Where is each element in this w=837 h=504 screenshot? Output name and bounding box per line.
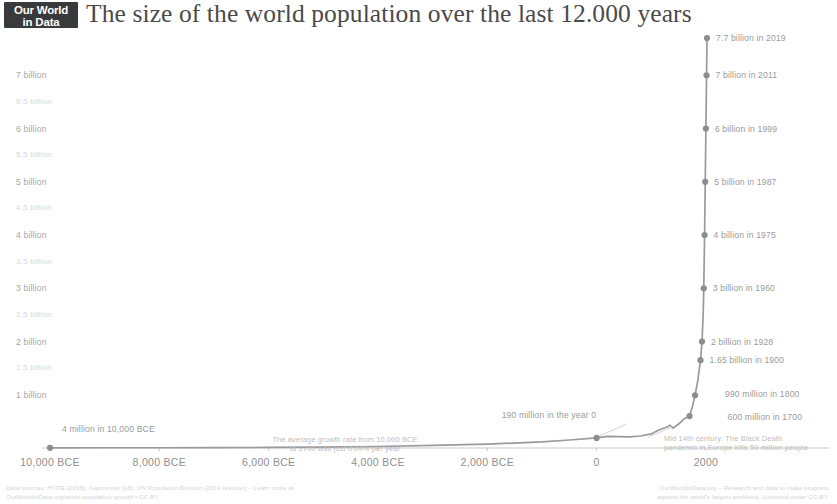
data-point-label: 990 million in 1800: [725, 389, 800, 399]
footer-sources: Data sources: HYDE (2016); Gapminder (v6…: [6, 484, 294, 491]
annotation-leader-lines: [600, 424, 672, 437]
footer-license: against the world's largest problems. Li…: [657, 493, 829, 500]
annotation-line: to 1700 was just 0.04% per year: [272, 444, 417, 453]
y-axis-tick-label: 7 billion: [16, 70, 47, 80]
data-point-marker[interactable]: [703, 72, 709, 78]
x-axis-tick-label: 6,000 BCE: [242, 456, 295, 468]
footer-site[interactable]: OurWorldInData.org – Research and data t…: [660, 484, 829, 491]
our-world-in-data-logo[interactable]: Our World in Data: [4, 2, 78, 28]
y-axis-tick-label: 5 billion: [16, 177, 47, 187]
x-axis-tick-label: 10,000 BCE: [20, 456, 80, 468]
data-point-label: 2 billion in 1928: [711, 337, 773, 347]
annotation-line: The average growth rate from 10,000 BCE: [272, 435, 417, 444]
y-axis-tick-label: 2 billion: [16, 337, 47, 347]
data-point-marker[interactable]: [701, 285, 707, 291]
data-point-label: 190 million in the year 0: [502, 410, 597, 420]
logo-line-2: in Data: [4, 16, 78, 28]
y-axis-tick-label: 4 billion: [16, 230, 47, 240]
data-point-label: 6 billion in 1999: [715, 124, 777, 134]
x-axis-tick-label: 2000: [694, 456, 719, 468]
data-point-marker[interactable]: [702, 179, 708, 185]
chart-header: Our World in Data The size of the world …: [0, 0, 837, 30]
data-point-label: 600 million in 1700: [728, 412, 803, 422]
x-axis-tick-label: 8,000 BCE: [133, 456, 186, 468]
black-death-annotation: Mid 14th century: The Black Deathpandemi…: [664, 434, 808, 452]
chart-plot-area: 7 billion6.5 billion6 billion5.5 billion…: [0, 30, 837, 480]
footer-link[interactable]: OurWorldInData.org/world-population-grow…: [6, 493, 159, 500]
y-axis-tick-label: 1 billion: [16, 390, 47, 400]
data-point-marker[interactable]: [692, 392, 698, 398]
data-point-marker[interactable]: [703, 125, 709, 131]
data-point-marker[interactable]: [701, 232, 707, 238]
data-point-marker[interactable]: [47, 445, 53, 451]
y-axis-tick-label: 6.5 billion: [16, 97, 52, 106]
x-axis-tick-label: 2,000 BCE: [461, 456, 514, 468]
y-axis-tick-label: 2.5 billion: [16, 310, 52, 319]
data-point-marker[interactable]: [699, 338, 705, 344]
y-axis-tick-label: 6 billion: [16, 124, 47, 134]
annotation-line: Mid 14th century: The Black Death: [664, 434, 808, 443]
x-axis-tick-label: 0: [594, 456, 600, 468]
data-point-label: 4 billion in 1975: [714, 230, 776, 240]
population-line: [50, 38, 707, 448]
annotation-line: pandemic in Europe kills 50 million peop…: [664, 443, 808, 452]
series-group: [50, 38, 707, 448]
annotation-leader-line: [600, 424, 627, 436]
x-axis-tick-label: 4,000 BCE: [351, 456, 404, 468]
y-axis-tick-label: 5.5 billion: [16, 150, 52, 159]
data-point-marker[interactable]: [704, 35, 710, 41]
data-point-label: 4 million in 10,000 BCE: [62, 424, 155, 434]
data-point-label: 7.7 billion in 2019: [716, 33, 786, 43]
logo-line-1: Our World: [4, 4, 78, 16]
data-point-label: 3 billion in 1960: [713, 283, 775, 293]
y-axis-tick-label: 3 billion: [16, 283, 47, 293]
data-point-marker[interactable]: [697, 357, 703, 363]
chart-footer: Data sources: HYDE (2016); Gapminder (v6…: [0, 484, 837, 504]
chart-title: The size of the world population over th…: [86, 0, 692, 29]
data-point-marker[interactable]: [594, 435, 600, 441]
y-axis-tick-label: 3.5 billion: [16, 257, 52, 266]
data-point-label: 7 billion in 2011: [716, 70, 778, 80]
y-axis-tick-label: 4.5 billion: [16, 203, 52, 212]
data-point-label: 1.65 billion in 1900: [709, 355, 784, 365]
data-point-label: 5 billion in 1987: [714, 177, 776, 187]
data-point-marker[interactable]: [686, 413, 692, 419]
growth-rate-annotation: The average growth rate from 10,000 BCEt…: [272, 435, 417, 453]
marker-group: [47, 35, 710, 451]
y-axis-tick-label: 1.5 billion: [16, 363, 52, 372]
chart-svg: [0, 30, 837, 480]
